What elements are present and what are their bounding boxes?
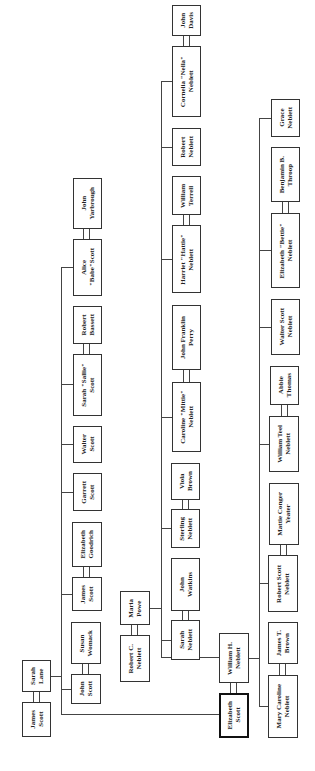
connector-line [61,714,219,715]
person-name: Elizabeth Goodrich [79,530,95,558]
marriage-connector [279,664,286,675]
person-name: Mary Caroline Neblett [275,684,291,728]
person-box-john-davis: John Davis [172,5,201,36]
person-box-john-yarbrough: John Yarbrough [73,178,102,229]
connector-line [161,417,172,418]
person-name: Robert Scott Neblett [275,565,291,603]
person-name: Grace Neblett [278,107,294,129]
connector-line [161,640,171,641]
person-box-elizabeth-neblett: Elizabeth "Bettie" Neblett [271,213,300,288]
person-box-cornelia-neblett: Cornelia "Nella" Neblett [172,46,201,117]
person-name: Elizabeth Scott [226,701,242,729]
person-box-james-scott: James Scott [72,577,102,611]
person-name: John Watkins [178,572,194,597]
marriage-connector [183,36,190,46]
connector-line [61,594,72,595]
person-box-garrett-scott: Garrett Scott [73,473,102,511]
person-box-elizabeth-scott: Elizabeth Scott [219,693,249,738]
person-box-mary-caroline-neblett: Mary Caroline Neblett [268,675,298,738]
connector-line [259,327,271,328]
person-name: Maria Powe [127,599,143,618]
marriage-connector [280,545,287,555]
connector-line [61,689,71,690]
person-name: Cornelia "Nella" Neblett [179,56,195,107]
marriage-connector [83,229,90,239]
person-box-william-teel-neblett: William Teel Neblett [269,416,299,472]
marriage-connector [183,215,190,225]
person-box-walter-scott: Walter Scott [73,426,102,463]
person-box-robert-neblett: Robert Neblett [172,128,201,166]
connector-line [161,81,162,658]
connector-line [150,608,161,609]
person-box-maria-powe: Maria Powe [120,591,150,625]
person-box-mattie-yeater: Mattie Conger Yeater [269,483,299,545]
person-box-john-franklin-perry: John Franklin Perry [172,305,201,370]
marriage-connector [33,692,40,702]
person-name: Walter Scott [80,434,96,455]
person-name: Benjamin B. Throop [278,156,294,193]
connector-line [61,444,73,445]
person-name: William Terrell [179,184,195,208]
person-box-harriet-neblett: Harriet "Hattie" Neblett [172,225,201,293]
connector-line [161,259,172,260]
marriage-connector [282,202,289,213]
person-name: Sarah "Sallie" Scott [80,363,96,407]
connector-line [259,444,269,445]
person-name: William H. Neblett [226,642,242,675]
person-box-john-scott: John Scott [71,674,101,704]
person-name: Abbie Thomas [277,373,293,397]
person-name: Sterling Neblett [178,517,194,541]
marriage-connector [182,611,189,620]
person-name: Robert Neblett [179,136,195,158]
person-box-james-t-brown: James T. Brown [268,622,298,664]
person-box-robert-scott-neblett: Robert Scott Neblett [268,555,298,612]
connector-line [259,706,268,707]
person-box-grace-neblett: Grace Neblett [271,99,300,137]
person-name: Sarah Neblett [178,629,194,651]
person-box-sterling-neblett: Sterling Neblett [171,509,200,548]
person-box-benjamin-throop: Benjamin B. Throop [271,147,300,202]
person-name: Alice "Babe"Scott [80,248,96,286]
connector-line [61,492,73,493]
person-name: Robert Bassett [80,314,96,335]
marriage-connector [131,625,138,635]
marriage-connector [182,500,189,509]
person-name: Viola Brown [178,471,194,491]
person-box-william-terrell: William Terrell [172,176,201,215]
person-name: John Yarbrough [80,187,96,220]
connector-line [259,118,260,707]
connector-line [259,118,271,119]
person-name: Mattie Conger Yeater [276,492,292,536]
connector-line [249,658,259,659]
person-box-walter-scott-neblett: Walter Scott Neblett [271,299,300,355]
marriage-connector [83,567,90,577]
person-name: James Scott [79,585,95,604]
marriage-connector [281,405,288,416]
person-box-william-h-neblett: William H. Neblett [219,633,249,683]
person-box-caroline-neblett: Caroline "Mittie" Neblett [172,382,201,452]
person-box-robert-bassett: Robert Bassett [73,306,102,344]
person-box-sarah-scott: Sarah "Sallie" Scott [73,354,102,416]
marriage-connector [82,664,89,674]
connector-line [61,267,62,715]
person-name: Sarah Lane [29,667,45,685]
marriage-connector [183,370,190,382]
person-name: Walter Scott Neblett [278,308,294,345]
person-box-sarah-neblett: Sarah Neblett [171,620,200,660]
person-name: John Franklin Perry [179,316,195,359]
connector-line [161,147,172,148]
connector-line [259,583,268,584]
person-name: John Davis [179,12,195,29]
marriage-connector [230,683,237,693]
family-tree-diagram: James ScottSarah LaneJohn YarbroughAlice… [0,0,315,771]
person-box-sarah-lane: Sarah Lane [22,660,51,692]
marriage-connector [83,344,90,354]
person-name: John Scott [78,681,94,696]
connector-line [259,250,271,251]
person-box-john-watkins: John Watkins [171,558,200,611]
person-box-james-scott-sr: James Scott [22,702,51,737]
person-name: Harriet "Hattie" Neblett [179,234,195,285]
person-name: Caroline "Mittie" Neblett [179,390,195,444]
person-name: Garrett Scott [80,481,96,504]
person-name: Robert C. Neblett [127,644,143,674]
